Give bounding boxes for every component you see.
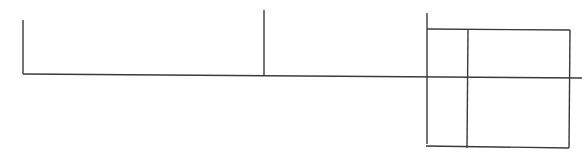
box-inner-vertical-line <box>467 29 468 148</box>
line-diagram <box>0 0 582 159</box>
main-horizontal-line <box>23 74 582 78</box>
box-bottom-line <box>426 146 569 148</box>
box-right-line <box>569 30 570 148</box>
box-top-line <box>427 29 570 30</box>
